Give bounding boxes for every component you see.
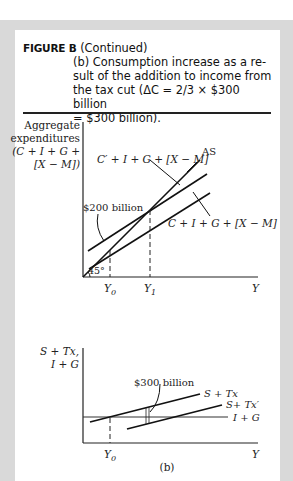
curve-label-i-g: I + G [232,412,260,423]
curve-label-s-tx: S + Tx [204,388,238,399]
curve-label-as: AS [201,146,216,157]
x-tick-y0: Y0 [104,448,116,463]
curve-label-new-ae: C′ + I + G + [X − M] [97,153,209,165]
annotation-200-billion: $200 billion [83,202,144,213]
curve-label-s-tx-new: S+ Tx′ [226,399,260,410]
y-axis-label: [X − M]) [34,158,80,170]
y-axis-label: (C + I + G + [12,145,80,157]
x-tick-y1: Y1 [144,282,156,297]
curve-label-old-ae: C + I + G + [X − M] [168,217,278,229]
y-axis-label: I + G [50,358,79,370]
figure-charts: Aggregate expenditures (C + I + G + [X −… [0,0,293,481]
angle-label: 45° [88,265,105,276]
bottom-chart: S + Tx, I + G $300 billion S + Tx S+ Tx′… [40,345,260,473]
x-tick-y0: Y0 [104,282,116,297]
panel-label: (b) [160,461,175,473]
x-axis-label: Y [252,282,260,294]
top-chart: Aggregate expenditures (C + I + G + [X −… [10,119,277,297]
y-axis-label: expenditures [10,132,80,144]
annotation-300-billion: $300 billion [134,377,195,388]
x-axis-label: Y [252,448,260,460]
y-axis-label: S + Tx, [40,345,79,357]
y-axis-label: Aggregate [23,119,80,131]
